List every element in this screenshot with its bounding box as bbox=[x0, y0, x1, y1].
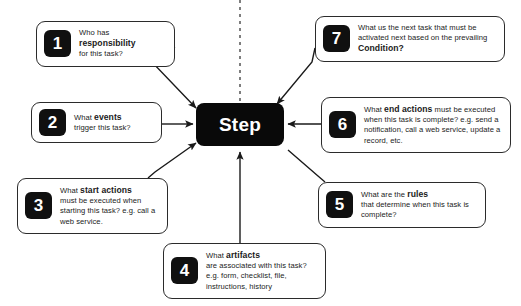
connector-7 bbox=[277, 48, 315, 104]
callout-3-line2: start actions bbox=[80, 185, 132, 195]
callout-1-line1: Who has bbox=[79, 28, 109, 37]
callout-1-badge: 1 bbox=[44, 30, 71, 57]
connector-5 bbox=[288, 150, 325, 182]
callout-2-badge: 2 bbox=[39, 109, 66, 136]
callout-3-badge: 3 bbox=[25, 192, 52, 219]
callout-2-line1: What bbox=[74, 113, 94, 122]
callout-6-line2: end actions bbox=[384, 104, 432, 114]
callout-4-line1: What bbox=[206, 251, 226, 260]
center-node-label: Step bbox=[219, 114, 261, 136]
callout-6[interactable]: 6 What end actions must be executed when… bbox=[321, 97, 511, 153]
callout-2-line3: trigger this task? bbox=[74, 123, 131, 132]
callout-7[interactable]: 7 What us the next task that must be act… bbox=[315, 16, 505, 62]
connector-3 bbox=[148, 143, 196, 178]
callout-3-line3: must be executed when starting this task… bbox=[60, 196, 155, 225]
callout-3-text: What start actions must be executed when… bbox=[60, 185, 158, 227]
callout-2-line2: events bbox=[94, 112, 122, 122]
callout-1-text: Who has responsibility for this task? bbox=[79, 28, 136, 60]
callout-4-line3: are associated with this task? e.g. form… bbox=[206, 261, 307, 290]
callout-1-line3: for this task? bbox=[79, 49, 123, 58]
callout-4-badge: 4 bbox=[171, 257, 198, 284]
diagram-canvas: Step 1 Who has responsibility for this t… bbox=[0, 0, 521, 306]
center-node-step[interactable]: Step bbox=[196, 103, 284, 146]
callout-5-line3: that determine when this task is complet… bbox=[361, 200, 469, 219]
callout-5[interactable]: 5 What are the rules that determine when… bbox=[318, 182, 486, 228]
callout-5-text: What are the rules that determine when t… bbox=[361, 189, 476, 221]
callout-7-badge: 7 bbox=[323, 25, 350, 52]
callout-5-line2: rules bbox=[407, 189, 428, 199]
callout-4-text: What artifacts are associated with this … bbox=[206, 250, 316, 292]
callout-1[interactable]: 1 Who has responsibility for this task? bbox=[36, 21, 175, 67]
callout-7-text: What us the next task that must be activ… bbox=[358, 23, 495, 55]
callout-7-line1: What us the next task that must be activ… bbox=[358, 23, 487, 42]
callout-2-text: What events trigger this task? bbox=[74, 112, 131, 133]
callout-6-badge: 6 bbox=[329, 111, 356, 138]
callout-4-line2: artifacts bbox=[226, 250, 260, 260]
callout-7-line2: Condition? bbox=[358, 43, 404, 53]
callout-3[interactable]: 3 What start actions must be executed wh… bbox=[17, 178, 168, 234]
callout-2[interactable]: 2 What events trigger this task? bbox=[31, 102, 162, 143]
callout-3-line1: What bbox=[60, 186, 80, 195]
callout-4[interactable]: 4 What artifacts are associated with thi… bbox=[163, 243, 326, 299]
callout-6-line1: What bbox=[364, 105, 384, 114]
callout-6-text: What end actions must be executed when t… bbox=[364, 104, 501, 146]
callout-5-badge: 5 bbox=[326, 191, 353, 218]
callout-1-line2: responsibility bbox=[79, 38, 136, 48]
callout-5-line1: What are the bbox=[361, 190, 407, 199]
